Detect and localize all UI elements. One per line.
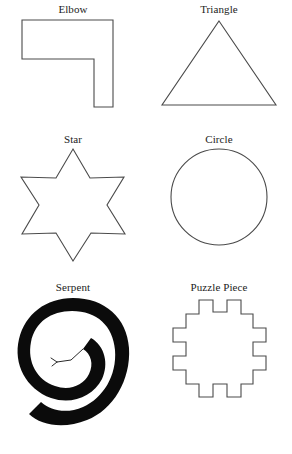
shape-cell-star: Star [0, 130, 146, 278]
shape-cell-serpent: Serpent [0, 278, 146, 454]
serpent-spiral-icon [13, 294, 133, 430]
shape-canvas-puzzle-piece [146, 294, 292, 454]
shape-canvas-circle [146, 146, 292, 278]
shape-cell-elbow: Elbow [0, 0, 146, 130]
shape-label-circle: Circle [205, 133, 232, 146]
shape-label-star: Star [64, 133, 82, 146]
shape-label-serpent: Serpent [56, 281, 90, 294]
shape-canvas-elbow [0, 16, 146, 130]
shape-label-triangle: Triangle [200, 3, 238, 16]
elbow-shape-icon [18, 16, 128, 112]
shape-figure-sheet: Elbow Triangle Star [0, 0, 292, 454]
triangle-shape-icon [157, 16, 281, 110]
shape-grid: Elbow Triangle Star [0, 0, 292, 454]
shape-label-puzzle-piece: Puzzle Piece [190, 281, 247, 294]
circle-shape-icon [168, 146, 270, 248]
star-shape-icon [17, 146, 129, 264]
shape-cell-triangle: Triangle [146, 0, 292, 130]
shape-canvas-triangle [146, 16, 292, 130]
shape-cell-circle: Circle [146, 130, 292, 278]
shape-canvas-star [0, 146, 146, 278]
shape-canvas-serpent [0, 294, 146, 454]
shape-label-elbow: Elbow [58, 3, 87, 16]
shape-cell-puzzle-piece: Puzzle Piece [146, 278, 292, 454]
puzzle-piece-shape-icon [165, 294, 273, 406]
